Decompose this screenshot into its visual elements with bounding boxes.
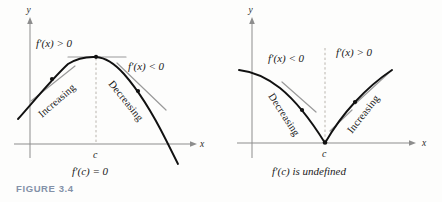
right-point-decreasing: [300, 108, 304, 112]
right-bottom-caption: f′(c) is undefined: [272, 165, 346, 178]
right-tick-label-c: c: [322, 148, 327, 159]
left-x-axis-label: x: [199, 139, 205, 149]
right-panel-group: y x f′(x) < 0 f′(x) > 0 Decreasing I: [237, 5, 427, 178]
left-y-axis-arrowhead: [27, 17, 33, 24]
right-label-derivative-negative: f′(x) < 0: [268, 52, 305, 65]
right-word-decreasing: Decreasing: [266, 91, 302, 138]
left-word-increasing: Increasing: [36, 81, 78, 119]
right-y-axis-arrowhead: [249, 17, 255, 24]
right-label-derivative-positive: f′(x) > 0: [336, 46, 373, 59]
right-point-cusp: [323, 140, 328, 145]
left-panel-group: y x f′(x) > 0 f′(x) < 0 Increasing D: [14, 5, 205, 178]
left-label-derivative-positive: f′(x) > 0: [36, 37, 73, 50]
left-point-increasing: [50, 77, 54, 81]
right-word-increasing: Increasing: [345, 92, 382, 135]
left-x-axis-arrowhead: [190, 141, 197, 147]
figure-caption: FIGURE 3.4: [16, 183, 74, 194]
left-label-derivative-negative: f′(x) < 0: [128, 60, 165, 73]
right-curve-right-branch: [325, 70, 392, 143]
right-x-axis-label: x: [421, 138, 427, 148]
left-y-axis-label: y: [26, 5, 32, 15]
right-y-axis-label: y: [248, 5, 254, 15]
left-bottom-caption: f′(c) = 0: [72, 165, 109, 178]
left-tick-label-c: c: [93, 149, 98, 160]
figure-illustration: y x f′(x) > 0 f′(x) < 0 Increasing D: [0, 0, 442, 202]
left-point-vertex: [94, 55, 98, 59]
figure-container: y x f′(x) > 0 f′(x) < 0 Increasing D: [0, 0, 442, 202]
left-point-decreasing: [136, 89, 140, 93]
right-point-increasing: [353, 100, 357, 104]
right-x-axis-arrowhead: [409, 140, 416, 146]
